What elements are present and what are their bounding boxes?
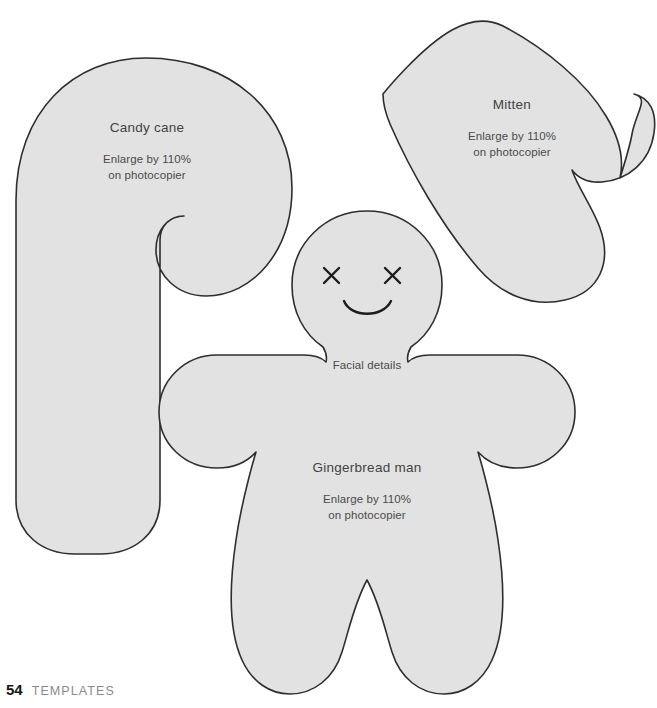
templates-artwork [0, 0, 657, 708]
footer-page-number: 54 [6, 681, 23, 698]
page-footer: 54 TEMPLATES [6, 681, 115, 698]
footer-section-name: TEMPLATES [32, 684, 115, 698]
template-page: Candy cane Enlarge by 110% on photocopie… [0, 0, 657, 708]
